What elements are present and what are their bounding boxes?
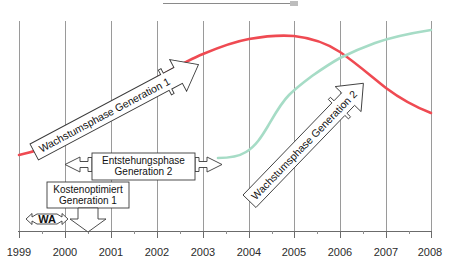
x-tick-label: 2003 xyxy=(191,246,215,258)
down-arrow-icon xyxy=(70,208,106,232)
chart-canvas: 1999 2000 2001 2002 2003 2004 2005 2006 … xyxy=(0,0,451,266)
x-tick-label: 2001 xyxy=(99,246,123,258)
top-rule-end-cap xyxy=(290,1,298,6)
x-tick-label: 2006 xyxy=(328,246,352,258)
annotation-label-line2: Generation 2 xyxy=(115,166,173,177)
chart-figure: 1999 2000 2001 2002 2003 2004 2005 2006 … xyxy=(0,0,451,266)
x-tick-labels: 1999 2000 2001 2002 2003 2004 2005 2006 … xyxy=(7,246,442,258)
annotation-label: Wachstumsphase Generation 2 xyxy=(249,88,360,202)
x-tick-label: 1999 xyxy=(7,246,31,258)
x-tick-label: 2000 xyxy=(53,246,77,258)
x-tick-label: 2008 xyxy=(418,246,442,258)
annotation-label-line1: Entstehungsphase xyxy=(102,155,185,166)
annotation-label: Wachstumsphase Generation 1 xyxy=(37,75,172,155)
annotation-entstehungsphase-generation-2[interactable]: Entstehungsphase Generation 2 xyxy=(65,153,222,180)
annotation-label-line2: Generation 1 xyxy=(59,195,117,206)
x-tick-label: 2002 xyxy=(145,246,169,258)
annotation-label-line1: Kostenoptimiert xyxy=(53,184,123,195)
annotation-wachstumsphase-generation-1[interactable]: Wachstumsphase Generation 1 xyxy=(26,49,207,168)
x-tick-label: 2004 xyxy=(237,246,261,258)
annotation-kostenoptimiert-generation-1[interactable]: Kostenoptimiert Generation 1 xyxy=(47,182,129,232)
x-tick-label: 2005 xyxy=(282,246,306,258)
annotation-label: WA xyxy=(38,213,56,225)
x-tick-label: 2007 xyxy=(374,246,398,258)
annotation-wa-marker[interactable]: WA xyxy=(26,213,68,225)
x-axis xyxy=(18,231,432,238)
